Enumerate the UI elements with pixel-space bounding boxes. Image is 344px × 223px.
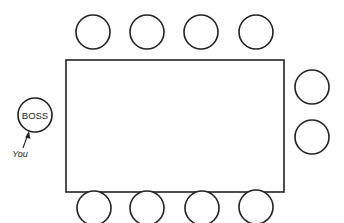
seat-right-2 bbox=[295, 120, 329, 154]
boss-label: BOSS bbox=[22, 110, 48, 121]
bottom-seats bbox=[77, 190, 273, 223]
right-seats bbox=[295, 70, 329, 154]
top-seats bbox=[76, 15, 273, 49]
seat-bottom-4 bbox=[239, 190, 273, 223]
seat-top-3 bbox=[184, 15, 218, 49]
conference-table bbox=[66, 60, 284, 192]
you-annotation: You bbox=[12, 131, 30, 159]
seat-bottom-2 bbox=[130, 191, 164, 223]
seat-right-1 bbox=[295, 70, 329, 104]
seat-top-2 bbox=[130, 15, 164, 49]
boss-seat: BOSS bbox=[18, 98, 52, 132]
you-label: You bbox=[12, 149, 28, 159]
seat-top-1 bbox=[76, 15, 110, 49]
seat-bottom-3 bbox=[185, 191, 219, 223]
seat-top-4 bbox=[239, 15, 273, 49]
seat-bottom-1 bbox=[77, 191, 111, 223]
seating-diagram: BOSS You bbox=[0, 0, 344, 223]
arrow-head-icon bbox=[25, 131, 30, 139]
